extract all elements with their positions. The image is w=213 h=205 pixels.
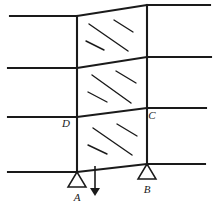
second-floor-line	[8, 108, 206, 117]
roof-line	[10, 5, 210, 16]
hatch-line	[114, 20, 133, 32]
arrow-head	[90, 188, 100, 196]
support-a	[68, 172, 86, 187]
third-floor-line	[8, 57, 211, 68]
label-point-b: B	[144, 183, 151, 195]
panel-hatching-group	[86, 20, 137, 155]
label-point-c: C	[148, 109, 156, 121]
hatch-line	[92, 75, 131, 103]
structural-frame-figure: A B C D	[0, 0, 213, 205]
hatch-line	[88, 92, 107, 102]
label-point-a: A	[73, 191, 81, 203]
support-b	[138, 164, 156, 179]
ground-line	[8, 164, 205, 172]
hatch-line	[116, 71, 136, 83]
hatch-line	[117, 124, 137, 136]
label-point-d: D	[61, 117, 70, 129]
hatch-line	[88, 145, 107, 154]
hatch-line	[86, 41, 104, 50]
hatch-line	[89, 24, 128, 51]
floor-lines-group	[8, 5, 211, 172]
hatch-line	[93, 128, 132, 155]
frame-diagram-svg: A B C D	[0, 0, 213, 205]
